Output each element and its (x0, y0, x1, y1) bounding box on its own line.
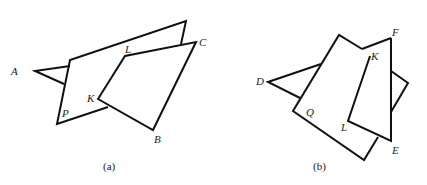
figure-a: A P K L C B (a) (10, 21, 207, 173)
label-K: K (370, 50, 379, 62)
right-protrusion-edges (391, 71, 408, 112)
caption-b: (b) (313, 160, 326, 173)
label-P: P (61, 107, 69, 119)
triangle-d-edges (268, 64, 321, 98)
front-quad-kfel (348, 38, 391, 141)
front-quad-klcb (98, 42, 196, 130)
label-K: K (86, 92, 95, 104)
back-polygon-edges (57, 21, 186, 124)
label-F: F (391, 26, 399, 38)
label-D: D (255, 75, 264, 87)
label-C: C (199, 36, 207, 48)
rectangle-to-f-edge (362, 38, 391, 49)
diagram-canvas: A P K L C B (a) D Q L K F E (b) (0, 0, 427, 185)
label-E: E (391, 144, 399, 156)
label-L: L (340, 121, 347, 133)
figure-b: D Q L K F E (b) (255, 26, 408, 173)
rectangle-q-edges (293, 35, 378, 160)
label-L: L (124, 43, 131, 55)
caption-a: (a) (103, 160, 116, 173)
label-B: B (154, 133, 161, 145)
label-Q: Q (306, 106, 314, 118)
label-A: A (10, 65, 18, 77)
